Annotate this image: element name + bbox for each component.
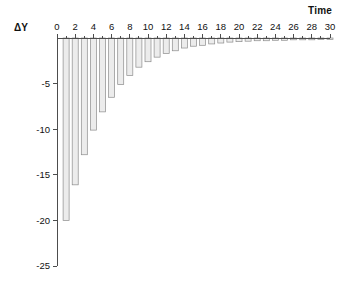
bar xyxy=(200,38,206,45)
x-tick-label: 4 xyxy=(91,21,96,32)
y-tick-label: -15 xyxy=(36,169,50,180)
x-tick-label: 0 xyxy=(54,21,59,32)
x-tick-label: 24 xyxy=(270,21,281,32)
bar xyxy=(90,38,96,130)
bar xyxy=(81,38,87,155)
bar xyxy=(236,38,242,42)
y-tick-label: -10 xyxy=(36,124,50,135)
bar xyxy=(163,38,169,54)
bar xyxy=(127,38,133,75)
x-tick-label: 10 xyxy=(143,21,154,32)
bar xyxy=(218,38,224,43)
x-tick-label: 16 xyxy=(197,21,208,32)
bar xyxy=(227,38,233,42)
bar xyxy=(145,38,151,62)
bar xyxy=(209,38,215,44)
x-tick-label: 28 xyxy=(307,21,318,32)
bar xyxy=(72,38,78,185)
x-tick-label: 2 xyxy=(73,21,78,32)
y-tick-labels: -5-10-15-20-25 xyxy=(36,78,50,271)
bar xyxy=(191,38,197,46)
x-tick-label: 8 xyxy=(127,21,132,32)
bars-group xyxy=(63,38,333,220)
bar xyxy=(118,38,124,85)
x-tick-label: 18 xyxy=(216,21,227,32)
x-tick-label: 22 xyxy=(252,21,263,32)
bar xyxy=(154,38,160,57)
bar xyxy=(100,38,106,112)
bar xyxy=(172,38,178,51)
x-tick-label: 14 xyxy=(179,21,190,32)
x-tick-label: 20 xyxy=(234,21,245,32)
y-tick-label: -5 xyxy=(42,78,50,89)
x-tick-labels: 024681012141618202224262830 xyxy=(54,21,335,32)
y-tick-label: -25 xyxy=(36,260,50,271)
chart-figure: Time ΔY 024681012141618202224262830 -5-1… xyxy=(0,0,344,295)
x-tick-label: 6 xyxy=(109,21,114,32)
bar xyxy=(109,38,115,97)
x-tick-label: 12 xyxy=(161,21,172,32)
bar xyxy=(63,38,69,220)
y-tick-label: -20 xyxy=(36,215,50,226)
x-tick-label: 30 xyxy=(325,21,336,32)
x-tick-label: 26 xyxy=(288,21,299,32)
bar xyxy=(181,38,187,48)
bar xyxy=(136,38,142,67)
plot-area: 024681012141618202224262830 -5-10-15-20-… xyxy=(0,0,344,295)
